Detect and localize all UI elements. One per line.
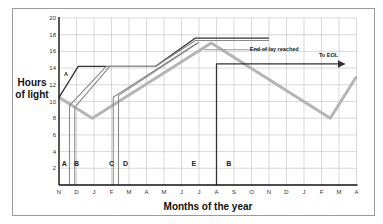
y-tick-label: 14: [49, 65, 56, 71]
y-tick-label: 2: [53, 165, 57, 171]
x-tick-label: D: [284, 189, 289, 195]
stem-label: D: [123, 160, 128, 167]
x-tick-label: J: [93, 189, 96, 195]
y-tick-label: 20: [49, 15, 56, 21]
y-tick-label: 6: [53, 132, 57, 138]
series-line-lighting-programme-b2: [75, 66, 110, 185]
x-tick-label: N: [267, 189, 271, 195]
x-tick-label: M: [162, 189, 167, 195]
x-tick-label: F: [320, 189, 324, 195]
y-tick-label: 12: [49, 82, 56, 88]
y-tick-label: 8: [53, 115, 57, 121]
x-tick-label: D: [74, 189, 79, 195]
y-tick-label: 10: [49, 99, 56, 105]
annotation-label: A: [64, 71, 68, 77]
hours-of-light-chart: 2468101214161820NDJFMAMJJASONDJFMA ABCDE…: [0, 0, 383, 224]
x-tick-label: F: [110, 189, 114, 195]
y-axis-title-line1: Hours: [18, 77, 47, 88]
x-tick-label: M: [337, 189, 342, 195]
x-tick-label: O: [249, 189, 254, 195]
annotation-label: To EOL: [319, 52, 339, 58]
x-tick-label: A: [214, 189, 218, 195]
annotation-label: End of lay reached: [250, 46, 299, 52]
x-tick-label: M: [127, 189, 132, 195]
stem-label: C: [109, 160, 114, 167]
y-tick-label: 4: [53, 149, 57, 155]
x-tick-label: A: [354, 189, 358, 195]
x-tick-label: S: [232, 189, 236, 195]
series-line-programme-e-b-switch: [217, 64, 345, 185]
x-tick-label: A: [144, 189, 148, 195]
stem-label: B: [226, 160, 231, 167]
x-tick-label: J: [303, 189, 306, 195]
series-group: [59, 38, 357, 185]
x-tick-label: J: [198, 189, 201, 195]
series-line-natural-daylight: [59, 43, 357, 118]
x-axis-title: Months of the year: [164, 201, 253, 212]
grid: [59, 18, 357, 185]
y-tick-label: 16: [49, 48, 56, 54]
y-tick-label: 18: [49, 32, 56, 38]
x-tick-label: J: [180, 189, 183, 195]
y-axis-title-line2: of light: [15, 89, 49, 100]
stem-label: A: [62, 160, 67, 167]
x-tick-label: N: [57, 189, 61, 195]
stem-label: B: [74, 160, 79, 167]
stem-label: E: [191, 160, 196, 167]
